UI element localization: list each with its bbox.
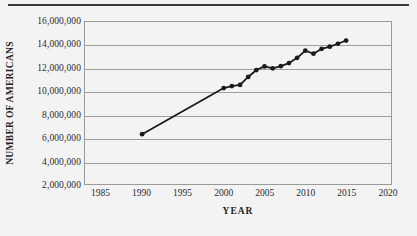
y-tick-label: 8,000,000	[0, 110, 81, 120]
chart-figure: NUMBER OF AMERICANS 2,000,0004,000,0006,…	[0, 0, 417, 236]
data-point-marker	[295, 55, 300, 60]
data-point-marker	[319, 46, 324, 51]
data-point-marker	[311, 51, 316, 56]
data-point-marker	[262, 64, 267, 69]
x-tick-label: 1990	[132, 188, 151, 198]
data-point-marker	[229, 84, 234, 89]
y-tick-label: 10,000,000	[0, 86, 81, 96]
x-tick-label: 1985	[91, 188, 110, 198]
plot-area	[84, 21, 392, 185]
data-point-marker	[303, 48, 308, 53]
data-point-marker	[327, 44, 332, 49]
y-tick-label: 4,000,000	[0, 157, 81, 167]
data-point-marker	[344, 38, 349, 43]
line-series	[85, 22, 391, 184]
x-tick-label: 2010	[296, 188, 315, 198]
x-axis-title: YEAR	[84, 206, 392, 216]
x-tick-label: 2020	[378, 188, 397, 198]
data-point-marker	[336, 41, 341, 46]
y-axis-tick-labels: 2,000,0004,000,0006,000,0008,000,00010,0…	[0, 21, 81, 185]
data-point-marker	[140, 132, 145, 137]
y-tick-label: 12,000,000	[0, 63, 81, 73]
y-tick-label: 16,000,000	[0, 16, 81, 26]
y-tick-label: 2,000,000	[0, 180, 81, 190]
data-point-marker	[254, 68, 259, 73]
y-tick-label: 6,000,000	[0, 133, 81, 143]
data-point-marker	[270, 66, 275, 71]
x-tick-label: 2015	[337, 188, 356, 198]
data-point-marker	[287, 61, 292, 66]
x-axis-tick-labels: 19851990199520002005201020152020	[84, 188, 392, 204]
y-tick-label: 14,000,000	[0, 39, 81, 49]
x-tick-label: 2000	[214, 188, 233, 198]
data-point-marker	[221, 86, 226, 91]
x-tick-label: 1995	[173, 188, 192, 198]
data-point-marker	[238, 83, 243, 88]
data-point-marker	[246, 75, 251, 80]
top-divider-rule	[8, 4, 409, 6]
x-tick-label: 2005	[255, 188, 274, 198]
data-point-marker	[278, 64, 283, 69]
